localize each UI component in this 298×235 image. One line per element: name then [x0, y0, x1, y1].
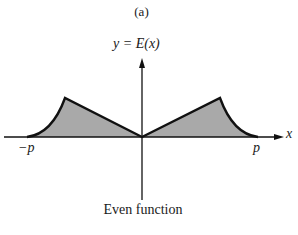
x-axis-arrow-icon	[274, 134, 284, 140]
y-axis-arrow-icon	[139, 58, 145, 68]
panel-label: (a)	[0, 4, 283, 20]
figure-caption: Even function	[0, 202, 286, 218]
x-axis-label: x	[286, 126, 292, 142]
tick-label-neg-p: −p	[18, 140, 34, 156]
y-axis-label: y = E(x)	[113, 36, 160, 52]
even-function-figure: (a) y = E(x) −p p x Even function	[0, 0, 298, 235]
tick-label-p: p	[253, 140, 260, 156]
